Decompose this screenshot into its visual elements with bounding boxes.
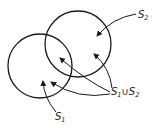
union-arrow-s1 [51, 82, 110, 96]
s1-label: S1 [55, 111, 66, 124]
s2-arrow [97, 14, 136, 36]
set-s2-circle [45, 11, 111, 77]
union-label: S1∪S2 [111, 86, 139, 99]
venn-diagram: S2 S1 S1∪S2 [0, 0, 159, 128]
s2-label: S2 [138, 9, 149, 22]
